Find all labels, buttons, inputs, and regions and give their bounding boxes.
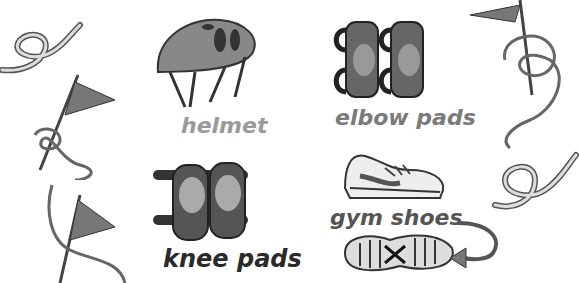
knee-pads-icon: [148, 160, 253, 245]
gym-shoes-label: gym shoes: [330, 205, 463, 230]
helmet-label: helmet: [181, 113, 268, 138]
flag-right-icon: [470, 0, 579, 150]
helmet-icon: [150, 12, 260, 112]
curved-arrow-icon: [448, 218, 508, 268]
shoe-sole-icon: [340, 228, 460, 278]
gym-shoe-icon: [340, 148, 450, 203]
flag-left-lower-icon: [40, 180, 140, 283]
elbow-pads-icon: [328, 20, 428, 100]
ribbon-top-left-icon: [0, 10, 90, 75]
elbow-pads-label: elbow pads: [335, 105, 476, 130]
ribbon-right-icon: [490, 150, 579, 215]
knee-pads-label: knee pads: [163, 245, 302, 273]
flag-left-upper-icon: [30, 70, 120, 180]
